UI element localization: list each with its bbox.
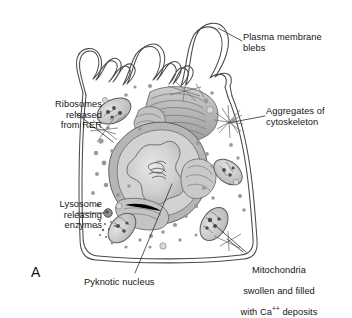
label-lysosome-releasing-enzymes: Lysosome releasing enzymes	[6, 199, 102, 231]
label-mitochondria-line2: swollen and filled	[243, 286, 315, 296]
label-plasma-membrane-blebs: Plasma membrane blebs	[243, 32, 322, 53]
label-mitochondria: Mitochondria swollen and filled with Ca+…	[212, 254, 346, 318]
label-mitochondria-line3-pre: with Ca	[241, 307, 272, 317]
label-mitochondria-line1: Mitochondria	[252, 265, 306, 275]
leader-mitochondria-b	[227, 239, 243, 252]
panel-letter: A	[31, 264, 40, 280]
cytoskeleton-aggregate-right	[214, 105, 243, 138]
label-calcium-superscript: ++	[272, 305, 280, 312]
label-ribosomes-released-from-rer: Ribosomes released from RER	[6, 99, 102, 131]
label-aggregates-of-cytoskeleton: Aggregates of cytoskeleton	[266, 106, 325, 127]
label-pyknotic-nucleus: Pyknotic nucleus	[84, 277, 155, 288]
label-mitochondria-line3-post: deposits	[280, 307, 318, 317]
